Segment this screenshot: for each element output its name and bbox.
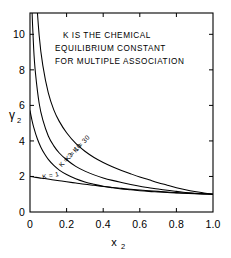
- y-axis-title-subscript: 2: [17, 116, 21, 125]
- annotation-line-3: FOR MULTIPLE ASSOCIATION: [55, 57, 184, 66]
- y-axis-title-symbol: γ: [9, 108, 15, 122]
- x-tick-label-4: 0.8: [169, 218, 184, 230]
- x-tick-label-1: 0.2: [59, 218, 74, 230]
- y-tick-label-0: 0: [19, 206, 25, 218]
- figure-container: K = 1K = 3K = 10K = 30 00.20.40.60.81.0 …: [0, 0, 231, 258]
- x-axis-title-symbol: x: [111, 236, 117, 248]
- y-tick-label-2: 4: [19, 135, 25, 147]
- y-tick-label-5: 10: [13, 28, 25, 40]
- x-tick-label-0: 0: [27, 218, 33, 230]
- x-tick-label-5: 1.0: [205, 218, 220, 230]
- activity-coefficient-chart: K = 1K = 3K = 10K = 30 00.20.40.60.81.0 …: [0, 0, 231, 258]
- annotation-line-1: K IS THE CHEMICAL: [63, 31, 151, 40]
- x-axis-title-subscript: 2: [121, 242, 125, 251]
- y-tick-label-3: 6: [19, 99, 25, 111]
- y-tick-label-1: 2: [19, 170, 25, 182]
- x-tick-label-3: 0.6: [132, 218, 147, 230]
- x-tick-label-2: 0.4: [96, 218, 111, 230]
- annotation-line-2: EQUILIBRIUM CONSTANT: [55, 44, 166, 53]
- y-tick-label-4: 8: [19, 64, 25, 76]
